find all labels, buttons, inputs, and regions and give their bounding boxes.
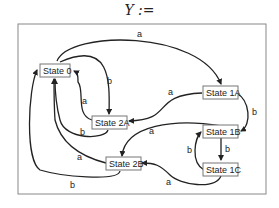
node-state-0: State 0 — [40, 64, 72, 77]
state-diagram: a b a b a b a b a b b a — [0, 0, 279, 208]
svg-text:State 1C: State 1C — [206, 165, 242, 175]
node-state-1b: State 1B — [203, 125, 241, 138]
node-state-1a: State 1A — [203, 86, 241, 99]
edge-label: b — [187, 145, 192, 155]
node-state-2b: State 2B — [106, 157, 144, 170]
edge-1b-1c: b — [221, 138, 230, 160]
edge-label: b — [80, 127, 85, 137]
svg-text:State 1B: State 1B — [206, 127, 241, 137]
edge-label: b — [252, 107, 257, 117]
edge-label: b — [70, 180, 75, 190]
edge-label: b — [225, 144, 230, 154]
edge-label: a — [149, 126, 154, 136]
node-state-1c: State 1C — [203, 163, 242, 176]
svg-text:State 0: State 0 — [43, 66, 72, 76]
edge-2a-0-a: a — [74, 71, 92, 120]
svg-text:State 2A: State 2A — [95, 118, 130, 128]
edge-1a-1b: b — [236, 93, 257, 131]
edge-2b-0-b: b — [30, 70, 121, 190]
edge-label: a — [166, 177, 171, 187]
edge-label: a — [77, 152, 82, 162]
edge-label: a — [82, 96, 87, 106]
edge-label: a — [137, 29, 142, 39]
edge-1c-1b: b — [187, 132, 204, 170]
edge-label: b — [107, 76, 112, 86]
edge-label: a — [168, 87, 173, 97]
svg-text:State 1A: State 1A — [206, 88, 241, 98]
edge-1a-2a: a — [129, 87, 202, 121]
node-state-2a: State 2A — [92, 116, 130, 129]
svg-text:State 2B: State 2B — [109, 159, 144, 169]
